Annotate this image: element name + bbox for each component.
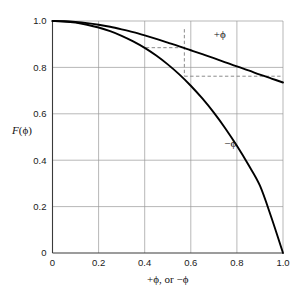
x-tick-label-4: 0.8 [230, 257, 243, 268]
x-tick-label-2: 0.4 [138, 257, 151, 268]
x-tick-label-5: 1.0 [276, 257, 289, 268]
y-axis-title: F(ϕ) [11, 124, 32, 137]
y-tick-label-2: 0.4 [33, 155, 46, 166]
y-tick-label-3: 0.6 [33, 108, 46, 119]
y-tick-label-5: 1.0 [33, 15, 46, 26]
chart-canvas: 00.20.40.60.81.0 00.20.40.60.81.0 +ϕ −ϕ … [0, 0, 302, 293]
x-tick-label-0: 0 [50, 257, 55, 268]
chart-figure: 00.20.40.60.81.0 00.20.40.60.81.0 +ϕ −ϕ … [0, 0, 302, 293]
x-tick-label-1: 0.2 [92, 257, 105, 268]
curve-label-plus-phi: +ϕ [214, 28, 226, 40]
y-tick-label-4: 0.8 [33, 62, 46, 73]
y-tick-label-1: 0.2 [33, 201, 46, 212]
y-tick-label-0: 0 [41, 247, 46, 258]
curve-label-minus-phi: −ϕ [224, 137, 236, 149]
x-tick-label-3: 0.6 [184, 257, 197, 268]
x-axis-title: +ϕ, or −ϕ [147, 273, 189, 285]
